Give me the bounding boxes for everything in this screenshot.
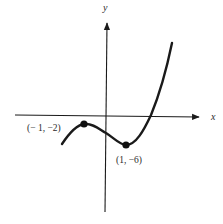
y-axis-label: y	[102, 2, 108, 13]
x-axis	[15, 115, 199, 117]
local-min-point	[122, 141, 129, 148]
function-graph: y x (− 1, −2) (1, −6)	[0, 0, 223, 224]
x-axis-label: x	[210, 111, 216, 122]
max-point-label: (− 1, −2)	[27, 123, 61, 134]
function-curve	[62, 43, 172, 145]
local-max-point	[80, 120, 87, 127]
min-point-label: (1, −6)	[116, 155, 142, 166]
y-axis	[105, 23, 107, 212]
